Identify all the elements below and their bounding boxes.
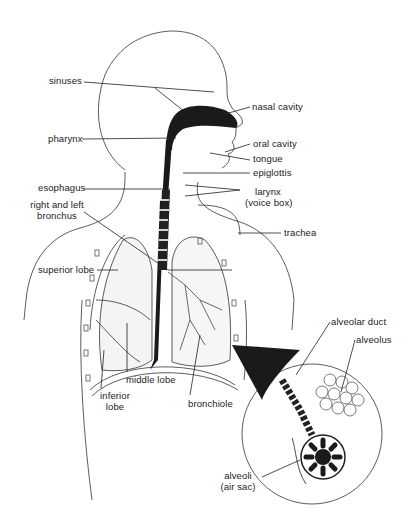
leader-oral-cavity <box>225 144 250 152</box>
leader-pharynx <box>82 138 176 139</box>
alveolar-duct <box>282 380 312 435</box>
label-epiglottis: epiglottis <box>253 167 292 178</box>
label-nasal-cavity: nasal cavity <box>252 101 303 112</box>
label-superior-lobe: superior lobe <box>38 264 94 275</box>
label-pharynx: pharynx <box>48 133 83 144</box>
leader-tongue <box>210 153 250 160</box>
label-oral-cavity: oral cavity <box>253 138 297 149</box>
label-alveolus: alveolus <box>356 334 392 345</box>
leader-alveoli <box>262 438 306 484</box>
label-inferior-lobe: inferior lobe <box>99 390 131 412</box>
label-esophagus: esophagus <box>38 182 85 193</box>
label-trachea: trachea <box>284 227 316 238</box>
label-tongue: tongue <box>253 153 283 164</box>
label-alveolar-duct: alveolar duct <box>331 316 386 327</box>
leader-alveolar-duct <box>296 322 330 375</box>
label-sinuses: sinuses <box>49 75 82 86</box>
alveoli-sac <box>301 435 345 479</box>
label-larynx: larynx (voice box) <box>245 186 291 208</box>
label-alveoli: alveoli (air sac) <box>218 470 258 492</box>
label-bronchus: right and left bronchus <box>30 199 84 221</box>
nasal-cavity-shape <box>166 106 238 150</box>
label-bronchiole: bronchiole <box>188 398 233 409</box>
leader-larynx <box>185 185 240 196</box>
label-middle-lobe: middle lobe <box>126 374 176 385</box>
